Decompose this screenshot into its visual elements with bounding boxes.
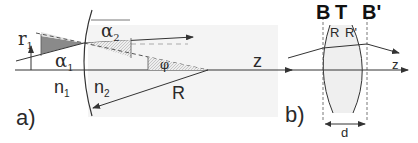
B-label: B (316, 2, 330, 22)
R-label: R (172, 84, 185, 102)
refraction-diagram (0, 0, 418, 143)
z-label-b: z (392, 58, 399, 71)
panel-a-label: a) (16, 107, 36, 129)
n1-label: n1 (54, 78, 70, 96)
d-label: d (341, 126, 348, 139)
alpha2-label: α2 (101, 22, 120, 40)
Bprime-label: B' (362, 2, 381, 22)
T-label: T (335, 2, 347, 22)
alpha1-label: α1 (55, 52, 74, 70)
R-right-label: R' (345, 26, 357, 39)
z-label-a: z (253, 52, 262, 70)
r1-label: r1 (18, 30, 33, 48)
phi-label: φ (160, 58, 169, 71)
R-left-label: R (330, 26, 339, 39)
n2-label: n2 (94, 78, 110, 96)
panel-b-label: b) (285, 104, 305, 126)
